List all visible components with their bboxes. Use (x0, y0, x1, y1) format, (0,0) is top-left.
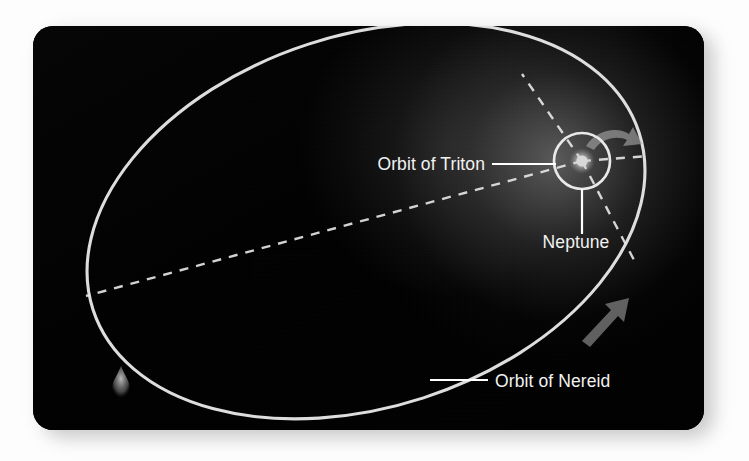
label-orbit-of-triton: Orbit of Triton (377, 154, 485, 174)
nereid-orbit-group (36, 26, 697, 430)
orbit-diagram-svg: Orbit of Triton Neptune Orbit of Nereid (33, 26, 704, 430)
direction-arrow-lower (582, 298, 629, 347)
leader-line-group (430, 164, 582, 380)
figure-root: Orbit of Triton Neptune Orbit of Nereid (0, 0, 749, 461)
direction-arrow-upper (586, 127, 642, 150)
label-orbit-of-nereid: Orbit of Nereid (495, 371, 610, 391)
neptune-system-group (554, 133, 610, 189)
teardrop-marker (112, 366, 130, 398)
neptune-body (576, 155, 587, 166)
sky-panel: Orbit of Triton Neptune Orbit of Nereid (33, 26, 704, 430)
label-neptune: Neptune (543, 232, 610, 252)
dashed-ray-up-left (522, 74, 582, 161)
dashed-major-axis (86, 161, 582, 296)
orbit-of-nereid-ellipse (36, 26, 697, 430)
dashed-ray-group (86, 74, 649, 296)
